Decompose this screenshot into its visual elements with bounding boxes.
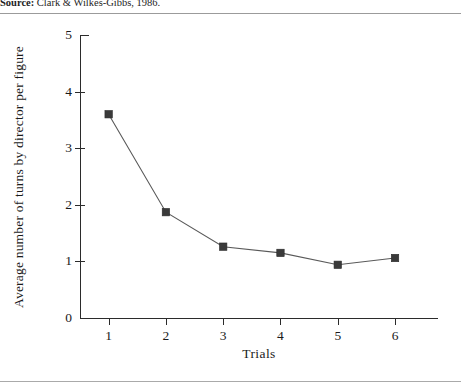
figure-container: Average number of turns by director per … — [0, 14, 461, 380]
series-turns-per-figure — [80, 35, 438, 318]
data-point-trial-4 — [277, 249, 284, 256]
y-tick-label-2: 2 — [65, 198, 72, 212]
y-tick-label-1: 1 — [65, 255, 72, 269]
x-tick-1 — [109, 318, 110, 325]
y-tick-4 — [75, 92, 85, 93]
x-axis-title: Trials — [80, 346, 438, 362]
source-label: Source: — [0, 0, 34, 8]
x-tick-label-4: 4 — [277, 329, 284, 343]
data-point-trial-1 — [105, 111, 112, 118]
data-point-trial-5 — [334, 261, 341, 268]
y-tick-label-3: 3 — [65, 141, 72, 155]
y-tick-label-4: 4 — [65, 85, 72, 99]
y-tick-2 — [75, 205, 85, 206]
x-tick-4 — [280, 318, 281, 325]
y-tick-1 — [75, 261, 85, 262]
y-tick-0 — [80, 318, 89, 319]
divider-bottom — [0, 381, 461, 382]
series-polyline — [109, 114, 395, 265]
plot-area: 012345123456 — [80, 35, 438, 318]
x-tick-2 — [166, 318, 167, 325]
y-tick-label-5: 5 — [65, 28, 72, 42]
x-tick-3 — [223, 318, 224, 325]
x-tick-5 — [338, 318, 339, 325]
y-tick-5 — [80, 35, 89, 36]
x-tick-label-1: 1 — [105, 329, 112, 343]
y-tick-3 — [75, 148, 85, 149]
source-text: Clark & Wilkes-Gibbs, 1986. — [34, 0, 160, 8]
data-point-trial-3 — [220, 243, 227, 250]
x-tick-6 — [395, 318, 396, 325]
source-caption: Source: Clark & Wilkes-Gibbs, 1986. — [0, 0, 461, 10]
y-tick-label-0: 0 — [65, 311, 72, 325]
x-tick-label-5: 5 — [334, 329, 341, 343]
data-point-trial-2 — [162, 208, 169, 215]
x-tick-label-2: 2 — [163, 329, 170, 343]
data-point-trial-6 — [391, 254, 398, 261]
x-tick-label-3: 3 — [220, 329, 227, 343]
x-axis-line — [80, 318, 438, 319]
x-tick-label-6: 6 — [392, 329, 399, 343]
y-axis-title: Average number of turns by director per … — [8, 35, 30, 318]
